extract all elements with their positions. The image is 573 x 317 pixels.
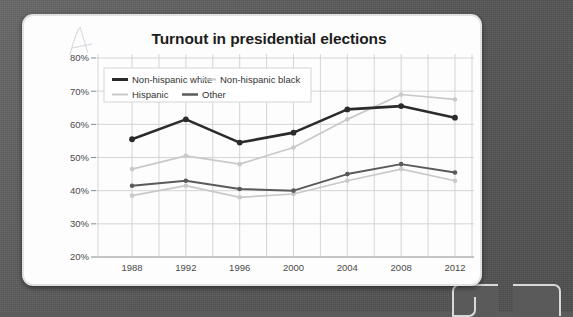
data-point xyxy=(453,97,458,102)
y-axis-tick-label: 40% xyxy=(70,185,90,196)
data-point xyxy=(291,145,296,150)
data-point xyxy=(344,107,350,113)
data-point xyxy=(398,103,404,109)
data-point xyxy=(184,183,189,188)
data-point xyxy=(399,167,404,172)
data-point xyxy=(237,195,242,200)
data-point xyxy=(184,178,189,183)
data-point xyxy=(345,178,350,183)
x-axis-tick-label: 2000 xyxy=(283,262,304,273)
x-axis-tick-label: 2004 xyxy=(337,262,358,273)
data-point xyxy=(130,167,135,172)
data-point xyxy=(452,115,458,121)
x-axis-tick-label: 1988 xyxy=(121,262,142,273)
data-point xyxy=(130,183,135,188)
legend-label-hispanic: Hispanic xyxy=(132,89,169,100)
legend-label-non-hispanic-black: Non-hispanic black xyxy=(220,74,301,85)
y-axis-tick-label: 50% xyxy=(70,152,90,163)
bottom-tab-notch-shape xyxy=(452,297,476,317)
y-axis-tick-label: 30% xyxy=(70,218,90,229)
x-axis-tick-label: 1992 xyxy=(175,262,196,273)
data-point xyxy=(237,162,242,167)
line-chart-plot: 20%30%40%50%60%70%80%1988199219962000200… xyxy=(24,16,480,284)
chart-card-inner: Turnout in presidential elections 20%30%… xyxy=(24,16,480,284)
data-point xyxy=(453,170,458,175)
data-point xyxy=(129,136,135,142)
data-point xyxy=(237,187,242,192)
data-point xyxy=(184,154,189,159)
data-point xyxy=(399,162,404,167)
bottom-tab-right-shape xyxy=(513,284,561,316)
data-point xyxy=(291,130,297,136)
y-axis-tick-label: 80% xyxy=(70,52,90,63)
chart-card: Turnout in presidential elections 20%30%… xyxy=(22,14,482,286)
legend-label-other: Other xyxy=(202,89,226,100)
x-axis-tick-label: 2012 xyxy=(444,262,465,273)
data-point xyxy=(345,117,350,122)
data-point xyxy=(130,193,135,198)
data-point xyxy=(237,140,243,146)
x-axis-tick-label: 1996 xyxy=(229,262,250,273)
data-point xyxy=(345,172,350,177)
y-axis-tick-label: 70% xyxy=(70,86,90,97)
data-point xyxy=(453,178,458,183)
x-axis-tick-label: 2008 xyxy=(391,262,412,273)
data-point xyxy=(399,92,404,97)
y-axis-tick-label: 60% xyxy=(70,119,90,130)
data-point xyxy=(183,116,189,122)
y-axis-tick-label: 20% xyxy=(70,251,90,262)
data-point xyxy=(291,188,296,193)
